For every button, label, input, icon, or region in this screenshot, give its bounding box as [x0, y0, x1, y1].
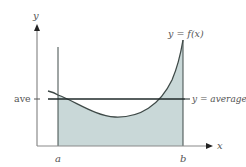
ave-label: ave	[14, 93, 31, 104]
curve-label: y = f(x)	[167, 28, 204, 39]
x-axis-label: x	[217, 140, 223, 151]
x-axis-arrow-icon	[206, 143, 213, 149]
y-axis-label: y	[32, 10, 39, 21]
b-label: b	[180, 153, 186, 164]
average-line-label: y = average	[191, 94, 246, 104]
diagram-canvas: y x ave a b y = f(x) y = average	[0, 0, 246, 167]
y-axis-arrow-icon	[34, 24, 40, 31]
a-label: a	[55, 153, 61, 164]
